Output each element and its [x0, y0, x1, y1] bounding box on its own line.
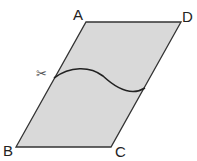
- diagram-canvas: [0, 0, 197, 161]
- parallelogram-abcd: [16, 22, 181, 147]
- vertex-label-d: D: [182, 9, 193, 24]
- vertex-label-c: C: [115, 144, 126, 159]
- parallelogram-diagram: ✂ A D B C: [0, 0, 197, 161]
- vertex-label-a: A: [73, 7, 83, 22]
- vertex-label-b: B: [3, 143, 13, 158]
- scissors-icon: ✂: [36, 67, 47, 80]
